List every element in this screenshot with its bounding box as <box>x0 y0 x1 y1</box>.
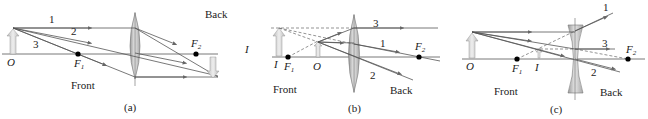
ray-label: 2 <box>591 66 597 78</box>
object-label: O <box>313 60 321 72</box>
image-label-a: I <box>244 43 250 55</box>
f1-label: F1 <box>283 60 294 74</box>
caption-a: (a) <box>124 101 137 114</box>
ray-diagrams: 1 2 3 O F1 F2 Front Back (a) I <box>0 0 648 119</box>
object-arrow-icon <box>7 29 19 54</box>
focal-point-f1 <box>285 54 290 59</box>
front-label: Front <box>273 83 297 95</box>
image-arrow-icon <box>207 57 219 78</box>
ray-label: 1 <box>49 13 55 25</box>
ray-label: 3 <box>373 17 379 29</box>
focal-point-f1 <box>75 51 80 56</box>
image-label: I <box>534 61 540 73</box>
caption-c: (c) <box>550 103 563 116</box>
image-arrow-icon <box>273 28 285 56</box>
f1-label: F1 <box>511 62 522 76</box>
ray-label: 3 <box>33 38 39 50</box>
object-arrow-icon <box>314 42 322 57</box>
back-label: Back <box>390 84 413 96</box>
ray-label: 1 <box>380 37 386 49</box>
object-label: O <box>466 60 474 72</box>
front-label: Front <box>494 85 518 97</box>
ray-label: 2 <box>370 69 376 81</box>
object-arrow-icon <box>466 33 478 58</box>
f2-label: F2 <box>414 40 426 54</box>
f2-label: F2 <box>190 37 202 51</box>
front-label: Front <box>71 79 95 91</box>
ray-label: 2 <box>71 25 77 37</box>
focal-point-f2 <box>625 56 630 61</box>
panel-c: 1 3 2 O F1 I F2 Front Back (c) <box>462 1 645 116</box>
image-label: I <box>273 58 279 70</box>
f1-label: F1 <box>73 57 84 71</box>
ray-label: 1 <box>603 1 609 13</box>
back-label: Back <box>205 8 228 20</box>
focal-point-f2 <box>416 54 421 59</box>
ray-label: 3 <box>602 37 608 49</box>
focal-point-f1 <box>514 56 519 61</box>
back-label: Back <box>600 86 623 98</box>
panel-a: 1 2 3 O F1 F2 Front Back (a) <box>2 8 228 114</box>
f2-label: F2 <box>625 43 637 57</box>
caption-b: (b) <box>348 102 361 115</box>
object-label: O <box>7 56 15 68</box>
panel-b: 3 1 2 I F1 O F2 Front Back (b) <box>271 14 440 115</box>
focal-point-f2 <box>193 51 198 56</box>
